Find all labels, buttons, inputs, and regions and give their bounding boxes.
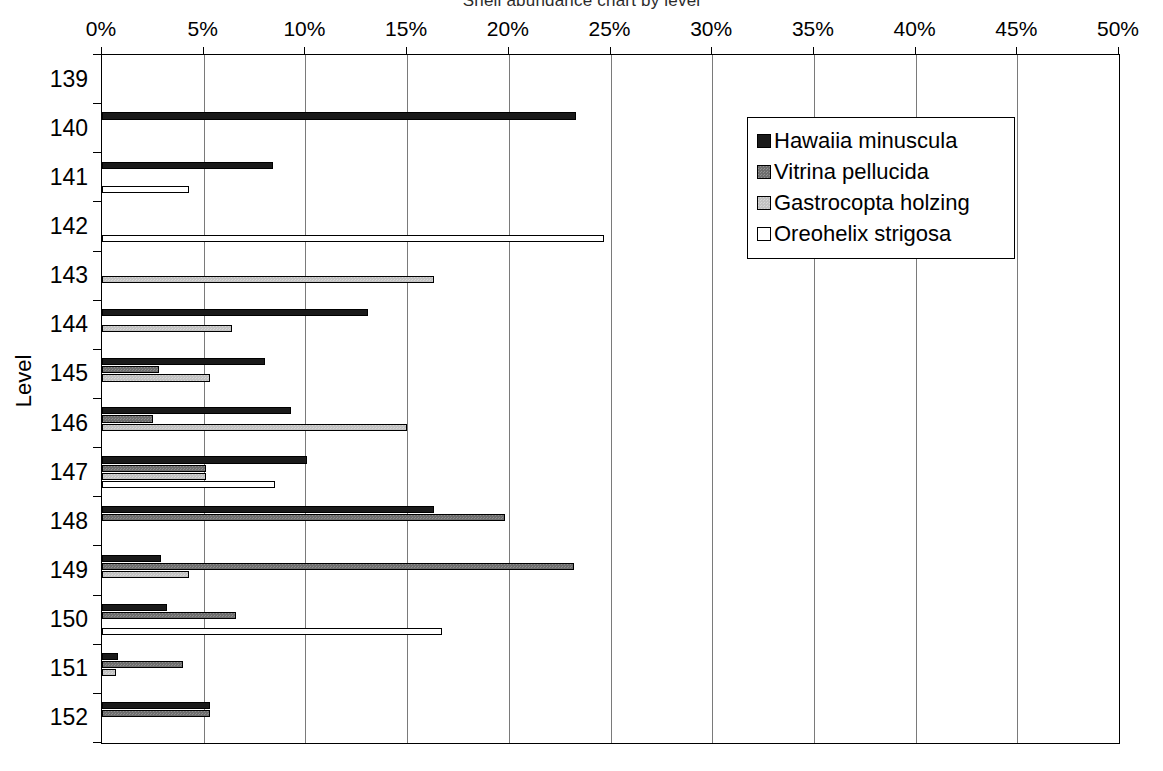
- chart-figure: Shell abundance chart by level Level 0%5…: [0, 0, 1163, 771]
- dark-gray-square-icon: [757, 165, 771, 179]
- bar-142-series-3: [102, 235, 604, 242]
- bar-146-series-2: [102, 424, 407, 431]
- x-axis-tick-mark: [101, 47, 102, 54]
- bar-148-series-1: [102, 514, 505, 521]
- x-axis-tick-mark: [1118, 47, 1119, 54]
- y-axis-tick-mark: [93, 251, 101, 252]
- x-axis-tick-label: 30%: [666, 17, 756, 41]
- white-square-icon: [757, 227, 771, 241]
- y-axis-tick-label: 147: [50, 458, 88, 485]
- x-axis-tick-mark: [203, 47, 204, 54]
- bar-150-series-1: [102, 612, 236, 619]
- bar-145-series-0: [102, 358, 265, 365]
- y-axis-tick-mark: [93, 595, 101, 596]
- y-axis-tick-mark: [93, 644, 101, 645]
- y-axis-tick-mark: [93, 54, 101, 55]
- bar-147-series-1: [102, 465, 206, 472]
- y-axis-tick-mark: [93, 496, 101, 497]
- legend-item-label: Gastrocopta holzing: [774, 192, 970, 214]
- bar-146-series-1: [102, 415, 153, 422]
- x-axis-tick-mark: [813, 47, 814, 54]
- x-axis-tick-mark: [508, 47, 509, 54]
- light-gray-square-icon: [757, 196, 771, 210]
- legend-item-label: Hawaiia minuscula: [774, 130, 957, 152]
- bar-147-series-0: [102, 456, 307, 463]
- black-square-icon: [757, 134, 771, 148]
- x-axis-tick-label: 45%: [971, 17, 1061, 41]
- y-axis-tick-mark: [93, 349, 101, 350]
- x-gridline: [305, 55, 306, 743]
- bar-148-series-0: [102, 506, 434, 513]
- y-axis-tick-label: 146: [50, 409, 88, 436]
- y-axis-tick-mark: [93, 447, 101, 448]
- bar-145-series-2: [102, 374, 210, 381]
- bar-141-series-0: [102, 162, 273, 169]
- y-axis-tick-label: 139: [50, 65, 88, 92]
- bar-149-series-2: [102, 571, 189, 578]
- y-axis-tick-label: 141: [50, 163, 88, 190]
- x-axis-tick-label: 40%: [870, 17, 960, 41]
- x-axis-tick-label: 15%: [361, 17, 451, 41]
- y-axis-tick-mark: [93, 545, 101, 546]
- x-axis-tick-label: 25%: [565, 17, 655, 41]
- x-axis-tick-label: 20%: [463, 17, 553, 41]
- y-axis-tick-mark: [93, 398, 101, 399]
- bar-150-series-0: [102, 604, 167, 611]
- x-axis-tick-mark: [610, 47, 611, 54]
- legend-item[interactable]: Hawaiia minuscula: [748, 125, 1014, 156]
- bar-152-series-0: [102, 702, 210, 709]
- bar-141-series-3: [102, 186, 189, 193]
- y-axis-tick-label: 145: [50, 360, 88, 387]
- x-gridline: [1017, 55, 1018, 743]
- bar-149-series-1: [102, 563, 574, 570]
- y-axis-title: Level: [11, 341, 37, 421]
- y-axis-tick-label: 140: [50, 114, 88, 141]
- bar-145-series-1: [102, 366, 159, 373]
- x-axis-tick-mark: [406, 47, 407, 54]
- y-axis-tick-label: 144: [50, 311, 88, 338]
- y-axis-tick-label: 150: [50, 606, 88, 633]
- x-gridline: [611, 55, 612, 743]
- y-axis-tick-mark: [93, 103, 101, 104]
- x-gridline: [712, 55, 713, 743]
- bar-146-series-0: [102, 407, 291, 414]
- x-gridline: [407, 55, 408, 743]
- y-axis-tick-label: 143: [50, 262, 88, 289]
- x-axis-tick-label: 0%: [56, 17, 146, 41]
- x-axis-tick-label: 10%: [259, 17, 349, 41]
- y-axis-tick-mark: [93, 742, 101, 743]
- y-axis-tick-mark: [93, 201, 101, 202]
- y-axis-tick-mark: [93, 693, 101, 694]
- bar-149-series-0: [102, 555, 161, 562]
- y-axis-tick-label: 148: [50, 507, 88, 534]
- bar-143-series-2: [102, 276, 434, 283]
- y-axis-tick-label: 152: [50, 704, 88, 731]
- chart-title: Shell abundance chart by level: [0, 0, 1163, 11]
- y-axis-tick-label: 151: [50, 655, 88, 682]
- x-axis-tick-mark: [304, 47, 305, 54]
- bar-151-series-2: [102, 669, 116, 676]
- bar-144-series-2: [102, 325, 232, 332]
- legend-item-label: Oreohelix strigosa: [774, 223, 951, 245]
- y-axis-tick-mark: [93, 152, 101, 153]
- y-axis-tick-label: 149: [50, 557, 88, 584]
- x-axis-tick-mark: [1016, 47, 1017, 54]
- x-axis-tick-mark: [711, 47, 712, 54]
- chart-legend: Hawaiia minusculaVitrina pellucidaGastro…: [747, 117, 1015, 259]
- y-axis-tick-mark: [93, 300, 101, 301]
- legend-item[interactable]: Vitrina pellucida: [748, 156, 1014, 187]
- bar-147-series-2: [102, 473, 206, 480]
- legend-item-label: Vitrina pellucida: [774, 161, 929, 183]
- x-gridline: [509, 55, 510, 743]
- bar-150-series-3: [102, 628, 442, 635]
- legend-item[interactable]: Oreohelix strigosa: [748, 218, 1014, 249]
- legend-item[interactable]: Gastrocopta holzing: [748, 187, 1014, 218]
- bar-147-series-3: [102, 481, 275, 488]
- y-axis-tick-label: 142: [50, 213, 88, 240]
- x-axis-tick-label: 50%: [1073, 17, 1163, 41]
- bar-151-series-1: [102, 661, 183, 668]
- x-axis-tick-label: 5%: [158, 17, 248, 41]
- bar-152-series-1: [102, 710, 210, 717]
- x-axis-tick-mark: [915, 47, 916, 54]
- x-gridline: [204, 55, 205, 743]
